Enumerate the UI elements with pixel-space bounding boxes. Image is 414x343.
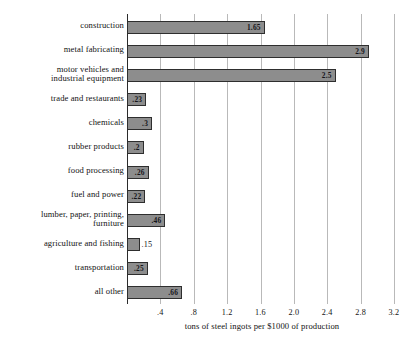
category-label: metal fabricating: [0, 45, 127, 55]
bar-track: .22: [127, 184, 414, 206]
category-label: agriculture and fishing: [0, 239, 127, 249]
bar-value-label: .25: [134, 264, 147, 273]
bar-row: trade and restaurants.23: [0, 87, 414, 111]
bar-track: .26: [127, 160, 414, 182]
bar-value-label: 1.65: [247, 23, 264, 32]
bar-row: lumber, paper, printing, furniture.46: [0, 207, 414, 231]
bar-value-label: .15: [139, 240, 153, 249]
bar-track: .46: [127, 208, 414, 230]
bar-row: construction1.65: [0, 14, 414, 38]
bar-track: .66: [127, 281, 414, 303]
category-label: fuel and power: [0, 190, 127, 200]
x-axis-title-text: tons of steel ingots per $1000 of produc…: [75, 321, 340, 331]
bar-row: all other.66: [0, 280, 414, 304]
bar: .25: [127, 262, 148, 275]
bar-track: 1.65: [127, 15, 414, 37]
bar-value-label: .3: [142, 119, 151, 128]
bar: .66: [127, 286, 182, 299]
bar: .26: [127, 166, 149, 179]
bar-rows: construction1.65metal fabricating2.9moto…: [0, 14, 414, 304]
bar-row: transportation.25: [0, 256, 414, 280]
bar-value-label: .22: [132, 192, 145, 201]
x-tick-label: 2.4: [322, 308, 333, 317]
bar-row: food processing.26: [0, 159, 414, 183]
bar-track: .23: [127, 88, 414, 110]
category-label: transportation: [0, 263, 127, 273]
bar-row: motor vehicles and industrial equipment2…: [0, 62, 414, 86]
category-label: trade and restaurants: [0, 94, 127, 104]
bar: 1.65: [127, 21, 265, 34]
category-label: food processing: [0, 166, 127, 176]
x-tick-label: .4: [157, 308, 164, 317]
bar-track: .3: [127, 112, 414, 134]
bar-track: .25: [127, 257, 414, 279]
bar-row: agriculture and fishing.15: [0, 232, 414, 256]
bar-row: rubber products.2: [0, 135, 414, 159]
bar-row: chemicals.3: [0, 111, 414, 135]
bar-value-label: .66: [168, 288, 181, 297]
bar-row: fuel and power.22: [0, 183, 414, 207]
bar-track: .2: [127, 136, 414, 158]
bar: .2: [127, 141, 144, 154]
bar-value-label: .23: [132, 95, 145, 104]
category-label: all other: [0, 287, 127, 297]
x-tick-label: 3.2: [389, 308, 400, 317]
x-axis-title: tons of steel ingots per $1000 of produc…: [0, 321, 414, 331]
bar-value-label: 2.5: [322, 71, 335, 80]
category-label: rubber products: [0, 142, 127, 152]
x-tick-label: 2.8: [355, 308, 366, 317]
category-label: chemicals: [0, 118, 127, 128]
bar: .3: [127, 117, 152, 130]
bar-track: 2.9: [127, 39, 414, 61]
x-tick-label: 1.6: [255, 308, 266, 317]
bar-value-label: 2.9: [355, 47, 368, 56]
bar: .15: [127, 238, 140, 251]
bar-row: metal fabricating2.9: [0, 38, 414, 62]
bar-value-label: .26: [135, 168, 148, 177]
x-tick-label: 2.0: [288, 308, 299, 317]
bar-track: .15: [127, 233, 414, 255]
bar-chart: construction1.65metal fabricating2.9moto…: [0, 0, 414, 343]
bar: .23: [127, 93, 146, 106]
bar: 2.9: [127, 45, 369, 58]
bar: 2.5: [127, 69, 336, 82]
category-label: lumber, paper, printing, furniture: [0, 210, 127, 229]
bar-value-label: .46: [152, 216, 165, 225]
x-tick-label: .8: [190, 308, 197, 317]
bar: .22: [127, 190, 145, 203]
x-tick-label: 1.2: [222, 308, 233, 317]
bar: .46: [127, 214, 165, 227]
category-label: motor vehicles and industrial equipment: [0, 65, 127, 84]
bar-value-label: .2: [134, 143, 143, 152]
bar-track: 2.5: [127, 63, 414, 85]
category-label: construction: [0, 21, 127, 31]
